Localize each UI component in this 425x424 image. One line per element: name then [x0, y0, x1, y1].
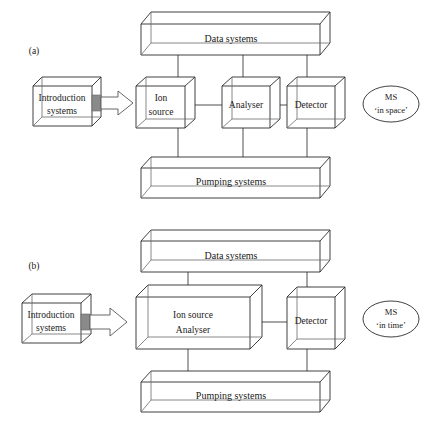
ellipse-a-ms-in-space: MS ‘in space’: [363, 86, 419, 122]
ellipse-a-line1: MS: [385, 92, 398, 102]
plug-a-inlet: [92, 95, 101, 111]
box-a-introduction-systems-line1: Introduction: [39, 93, 86, 103]
box-a-introduction-systems-line2: systems: [47, 106, 77, 116]
bar-a-pumping-systems: Pumping systems: [141, 157, 330, 198]
mass-spectrometer-schematic: (a): [0, 0, 425, 424]
bar-b-pumping-systems-label: Pumping systems: [196, 390, 266, 401]
panel-a-label: (a): [29, 46, 40, 57]
plug-b-inlet: [81, 314, 90, 330]
panel-a: (a): [29, 12, 419, 198]
bar-a-pumping-systems-label: Pumping systems: [196, 176, 266, 187]
bar-a-data-systems: Data systems: [141, 12, 330, 55]
box-a-introduction-systems: Introduction systems: [33, 77, 101, 126]
ellipse-b-ms-in-time: MS ‘in time’: [363, 301, 419, 337]
panel-b: (b) Data systems: [22, 230, 419, 412]
box-b-detector: Detector: [287, 287, 345, 349]
box-a-analyser: Analyser: [222, 77, 280, 128]
box-b-ion-source-analyser-line1: Ion source: [173, 310, 213, 320]
bar-b-data-systems: Data systems: [141, 230, 330, 272]
box-a-ion-source-line2: source: [149, 107, 174, 117]
figure-canvas: (a): [0, 0, 425, 424]
box-a-detector-label: Detector: [295, 100, 329, 110]
ellipse-a-line2: ‘in space’: [374, 105, 408, 115]
ellipse-b-line1: MS: [385, 307, 398, 317]
box-b-introduction-systems: Introduction systems: [22, 294, 91, 343]
box-a-detector: Detector: [287, 77, 345, 128]
box-b-ion-source-analyser-line2: Analyser: [176, 325, 211, 335]
box-a-ion-source-line1: Ion: [155, 93, 168, 103]
bar-a-data-systems-label: Data systems: [204, 33, 257, 44]
box-b-ion-source-analyser: Ion source Analyser: [136, 285, 262, 349]
box-a-ion-source: Ion source: [136, 77, 195, 128]
box-b-introduction-systems-line2: systems: [36, 323, 66, 333]
bar-b-pumping-systems: Pumping systems: [141, 371, 330, 412]
box-b-detector-label: Detector: [295, 316, 329, 326]
arrow-a-sample-flow: [101, 91, 133, 115]
panel-b-label: (b): [28, 261, 39, 272]
ellipse-b-line2: ‘in time’: [376, 320, 406, 330]
box-b-introduction-systems-line1: Introduction: [28, 310, 75, 320]
bar-b-data-systems-label: Data systems: [204, 250, 257, 261]
arrow-b-sample-flow: [90, 308, 127, 336]
box-a-analyser-label: Analyser: [229, 100, 264, 110]
